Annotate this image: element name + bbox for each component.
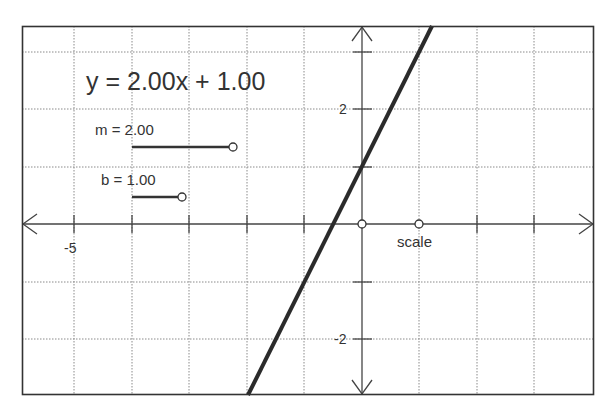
x-axis — [23, 214, 593, 234]
graph-canvas — [0, 0, 601, 413]
y-tick-label-neg: -2 — [334, 332, 346, 346]
slider-m-value: 2.00 — [125, 121, 154, 138]
slider-m-handle[interactable] — [229, 143, 237, 151]
scale-handle[interactable] — [415, 220, 423, 228]
slider-m-label: m = 2.00 — [95, 122, 154, 137]
slider-b-handle[interactable] — [178, 193, 186, 201]
slider-m-name: m = — [95, 121, 125, 138]
y-tick-label-pos: 2 — [339, 102, 347, 116]
slider-b[interactable] — [132, 193, 186, 201]
slider-b-name: b = — [101, 171, 126, 188]
x-tick-label: -5 — [64, 241, 76, 255]
slider-b-label: b = 1.00 — [101, 172, 156, 187]
y-axis — [352, 27, 372, 394]
origin-handle[interactable] — [358, 220, 366, 228]
slider-m[interactable] — [132, 143, 237, 151]
slider-b-value: 1.00 — [126, 171, 155, 188]
scale-label: scale — [397, 234, 432, 249]
equation-label: y = 2.00x + 1.00 — [86, 69, 265, 94]
